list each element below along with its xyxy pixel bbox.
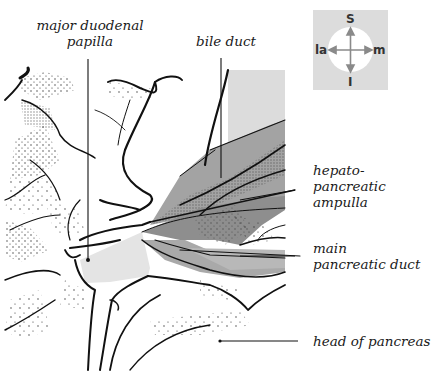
direction-lateral: la: [315, 44, 327, 56]
label-line: major duodenal: [30, 17, 150, 33]
papilla-region: [80, 232, 150, 283]
label-line: ampulla: [313, 194, 386, 210]
label-bile-duct: bile duct: [196, 33, 256, 49]
label-head-of-pancreas: head of pancreas: [313, 333, 430, 349]
label-major-duodenal-papilla: major duodenal papilla: [30, 17, 150, 49]
direction-medial: m: [373, 44, 386, 56]
label-line: pancreatic duct: [313, 256, 420, 272]
direction-superior: S: [346, 13, 355, 25]
orientation-compass: S I la m: [313, 10, 388, 90]
label-line: pancreatic: [313, 178, 386, 194]
label-line: main: [313, 240, 420, 256]
label-line: hepato-: [313, 162, 386, 178]
label-line: papilla: [30, 33, 150, 49]
label-main-pancreatic-duct: main pancreatic duct: [313, 240, 420, 272]
direction-inferior: I: [348, 76, 352, 88]
label-hepatopancreatic-ampulla: hepato- pancreatic ampulla: [313, 162, 386, 210]
